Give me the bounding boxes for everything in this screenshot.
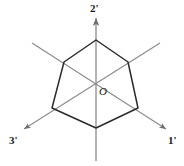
figure-container: 2' 3' 1' O	[0, 0, 184, 166]
origin-label: O	[99, 86, 107, 97]
axis-label-1prime: 1'	[168, 135, 177, 146]
axis-line-3prime	[24, 43, 160, 129]
axis-label-2prime: 2'	[90, 3, 99, 14]
geometric-figure	[0, 0, 184, 166]
axis-label-3prime: 3'	[9, 135, 18, 146]
